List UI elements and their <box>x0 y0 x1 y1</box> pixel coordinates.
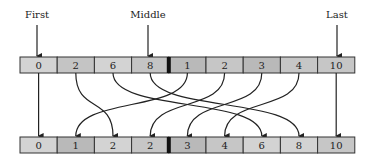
top-array-cell: 2 <box>206 57 243 73</box>
bottom-array-cell-value: 0 <box>35 140 41 151</box>
top-array-cell-value: 2 <box>73 60 79 71</box>
bottom-array-cell-value: 8 <box>296 140 302 151</box>
mapping-arrows <box>39 73 337 136</box>
bottom-array: 0122346810 <box>20 137 355 153</box>
bottom-array-cell-value: 4 <box>221 140 227 151</box>
top-array-cell-value: 8 <box>147 60 153 71</box>
top-array-range-divider <box>167 57 171 73</box>
top-array-cell-value: 10 <box>330 60 343 71</box>
mapping-arrow-icon <box>187 73 261 136</box>
top-array-cell-value: 1 <box>184 60 190 71</box>
top-array-cell: 1 <box>169 57 206 73</box>
bottom-array-cell-value: 1 <box>73 140 79 151</box>
top-array-cell-value: 2 <box>221 60 227 71</box>
mapping-arrow-icon <box>225 73 299 136</box>
pointer-arrows <box>37 25 337 56</box>
top-array-cell: 0 <box>20 57 57 73</box>
bottom-array-cell: 6 <box>243 137 280 153</box>
top-array-cell: 8 <box>132 57 169 73</box>
bottom-array-cell: 8 <box>280 137 317 153</box>
top-array-cell-value: 6 <box>110 60 116 71</box>
top-array: 0268123410 <box>20 57 355 73</box>
bottom-array-cell-value: 2 <box>147 140 153 151</box>
bottom-array-cell-value: 3 <box>184 140 190 151</box>
top-array-cell: 3 <box>243 57 280 73</box>
bottom-array-cell: 0 <box>20 137 57 153</box>
mapping-arrow-icon <box>150 73 224 136</box>
top-array-cell-value: 0 <box>35 60 41 71</box>
bottom-array-cell-value: 10 <box>330 140 343 151</box>
mapping-arrow-icon <box>76 73 188 136</box>
bottom-array-cell: 2 <box>94 137 131 153</box>
bottom-array-cell-value: 6 <box>259 140 265 151</box>
top-array-cell: 2 <box>57 57 94 73</box>
bottom-array-cell: 10 <box>318 137 355 153</box>
top-array-cell: 4 <box>280 57 317 73</box>
bottom-array-cell: 1 <box>57 137 94 153</box>
top-array-cell: 10 <box>318 57 355 73</box>
top-array-cell: 6 <box>94 57 131 73</box>
bottom-array-cell: 4 <box>206 137 243 153</box>
merge-diagram: 0268123410 0122346810 <box>0 0 374 161</box>
bottom-array-cell: 3 <box>169 137 206 153</box>
bottom-array-range-divider <box>167 137 171 153</box>
bottom-array-cell-value: 2 <box>110 140 116 151</box>
top-array-cell-value: 3 <box>259 60 265 71</box>
mapping-arrow-icon <box>76 73 113 136</box>
bottom-array-cell: 2 <box>132 137 169 153</box>
top-array-cell-value: 4 <box>296 60 302 71</box>
